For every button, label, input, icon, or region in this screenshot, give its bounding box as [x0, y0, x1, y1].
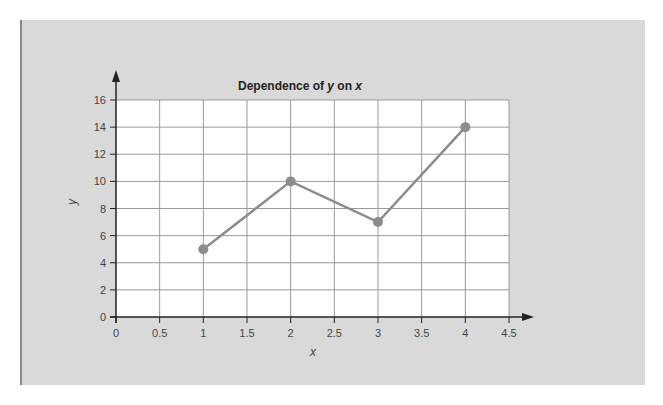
chart-title: Dependence of y on x [238, 79, 363, 93]
data-point [286, 176, 296, 186]
y-tick-label: 2 [100, 284, 106, 296]
x-tick-label: 1 [200, 327, 206, 339]
y-tick-label: 10 [94, 175, 106, 187]
y-tick-label: 6 [100, 230, 106, 242]
line-chart: Dependence of y on x 00.511.522.533.544.… [0, 0, 663, 405]
x-tick-label: 1.5 [239, 327, 254, 339]
y-tick-label: 16 [94, 94, 106, 106]
data-point [198, 244, 208, 254]
x-tick-label: 4.5 [501, 327, 516, 339]
x-tick-label: 2.5 [327, 327, 342, 339]
y-tick-label: 12 [94, 148, 106, 160]
x-axis-arrow-icon [522, 313, 534, 321]
x-tick-label: 0.5 [152, 327, 167, 339]
data-point [373, 217, 383, 227]
x-tick-label: 4 [462, 327, 468, 339]
x-axis-label: x [309, 345, 317, 359]
x-tick-label: 3 [375, 327, 381, 339]
y-tick-label: 8 [100, 203, 106, 215]
data-point [460, 122, 470, 132]
y-tick-label: 0 [100, 311, 106, 323]
x-tick-label: 3.5 [414, 327, 429, 339]
y-axis-arrow-icon [112, 70, 120, 82]
x-tick-label: 0 [113, 327, 119, 339]
y-tick-label: 14 [94, 121, 106, 133]
plot-area: 00.511.522.533.544.50246810121416 [94, 70, 534, 339]
y-tick-label: 4 [100, 257, 106, 269]
y-axis-label: y [65, 198, 79, 206]
x-tick-label: 2 [288, 327, 294, 339]
